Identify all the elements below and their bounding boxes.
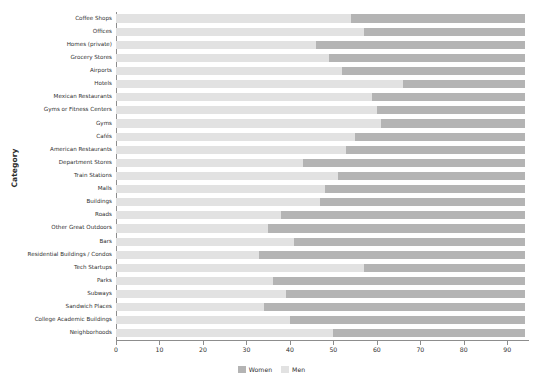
bar-row [116, 211, 529, 219]
bar-row [116, 198, 529, 206]
bar-segment-women [268, 224, 524, 232]
bar-row [116, 264, 529, 272]
bar-row [116, 28, 529, 36]
category-label: Neighborhoods [0, 330, 112, 336]
y-axis-title: Category [10, 148, 19, 187]
stacked-bar [116, 303, 525, 311]
chart-container: Category Coffee ShopsOfficesHomes (priva… [0, 0, 543, 386]
stacked-bar [116, 185, 525, 193]
stacked-bar [116, 80, 525, 88]
x-axis-tick-label: 80 [460, 346, 468, 353]
category-label: Train Stations [0, 173, 112, 179]
category-label: Cafés [0, 134, 112, 140]
legend-label: Men [292, 366, 305, 373]
x-axis-tick [246, 341, 247, 345]
bar-row [116, 133, 529, 141]
stacked-bar [116, 264, 525, 272]
bar-segment-women [342, 67, 525, 75]
bar-row [116, 172, 529, 180]
stacked-bar [116, 14, 525, 22]
bar-segment-women [281, 211, 524, 219]
bar-segment-men [116, 316, 290, 324]
bar-row [116, 224, 529, 232]
category-label: Department Stores [0, 160, 112, 166]
category-label: Residential Buildings / Condos [0, 252, 112, 258]
bar-segment-women [346, 146, 524, 154]
bar-row [116, 329, 529, 337]
category-label: Parks [0, 278, 112, 284]
bar-segment-men [116, 133, 355, 141]
stacked-bar [116, 41, 525, 49]
legend-item[interactable]: Women [238, 366, 272, 373]
x-axis-tick-label: 40 [286, 346, 294, 353]
stacked-bar [116, 119, 525, 127]
bar-segment-women [338, 172, 525, 180]
x-axis-tick-label: 50 [329, 346, 337, 353]
bar-segment-women [333, 329, 524, 337]
category-label: Subways [0, 291, 112, 297]
chart-legend: WomenMen [0, 366, 543, 373]
stacked-bar [116, 54, 525, 62]
bar-segment-women [303, 159, 525, 167]
x-axis-tick [290, 341, 291, 345]
category-label: College Academic Buildings [0, 317, 112, 323]
category-label: Homes (private) [0, 42, 112, 48]
category-label: Airports [0, 68, 112, 74]
stacked-bar [116, 159, 525, 167]
category-label: Bars [0, 239, 112, 245]
x-axis-tick-label: 10 [156, 346, 164, 353]
bar-segment-men [116, 80, 403, 88]
x-axis-tick-label: 70 [416, 346, 424, 353]
bar-row [116, 277, 529, 285]
x-axis-tick-label: 0 [114, 346, 118, 353]
bar-segment-men [116, 251, 259, 259]
bar-segment-women [372, 93, 524, 101]
bar-row [116, 185, 529, 193]
bar-segment-women [364, 264, 525, 272]
bar-segment-women [320, 198, 524, 206]
bar-segment-women [355, 133, 525, 141]
bar-segment-men [116, 146, 346, 154]
bar-row [116, 41, 529, 49]
bar-segment-women [403, 80, 525, 88]
bar-segment-men [116, 172, 338, 180]
x-axis-tick [159, 341, 160, 345]
category-label: Gyms or Fitness Centers [0, 107, 112, 113]
bar-row [116, 80, 529, 88]
legend-label: Women [249, 366, 272, 373]
bar-segment-men [116, 185, 325, 193]
x-axis-tick [464, 341, 465, 345]
bar-segment-men [116, 303, 264, 311]
stacked-bar [116, 172, 525, 180]
category-label: Buildings [0, 199, 112, 205]
x-axis-tick-label: 90 [503, 346, 511, 353]
x-axis-tick [507, 341, 508, 345]
stacked-bar [116, 198, 525, 206]
stacked-bar [116, 28, 525, 36]
bar-segment-women [259, 251, 524, 259]
bar-segment-women [364, 28, 525, 36]
bar-segment-men [116, 106, 377, 114]
x-axis-tick [203, 341, 204, 345]
x-axis-tick [333, 341, 334, 345]
legend-item[interactable]: Men [281, 366, 305, 373]
bar-segment-women [286, 290, 525, 298]
category-label: American Restaurants [0, 147, 112, 153]
bar-row [116, 251, 529, 259]
stacked-bar [116, 238, 525, 246]
bar-segment-men [116, 67, 342, 75]
bar-segment-men [116, 28, 364, 36]
bar-row [116, 238, 529, 246]
stacked-bar [116, 146, 525, 154]
stacked-bar [116, 224, 525, 232]
category-label: Sandwich Places [0, 304, 112, 310]
category-label: Tech Startups [0, 265, 112, 271]
bar-row [116, 106, 529, 114]
category-label: Gyms [0, 121, 112, 127]
x-axis-tick [377, 341, 378, 345]
bar-segment-men [116, 264, 364, 272]
bar-segment-men [116, 211, 281, 219]
bar-segment-women [325, 185, 525, 193]
category-label: Malls [0, 186, 112, 192]
category-label: Offices [0, 29, 112, 35]
